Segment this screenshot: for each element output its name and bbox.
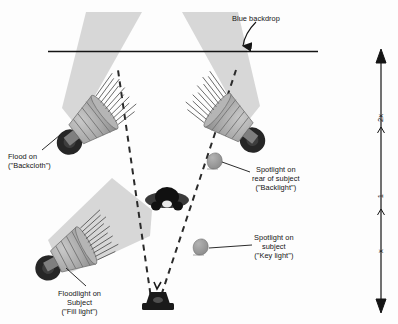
label-flood-backcloth-line1: Flood on bbox=[8, 152, 51, 161]
label-spotlight-key: Spotlight on subject ("Key light") bbox=[254, 233, 294, 261]
camera bbox=[142, 282, 174, 310]
label-flood-backcloth: Flood on ("Backcloth") bbox=[8, 152, 51, 170]
label-floodlight-fill-line2: Subject bbox=[58, 298, 101, 307]
distance-scale-axis bbox=[376, 49, 386, 313]
label-spotlight-backlight-line1: Spotlight on bbox=[252, 165, 300, 174]
label-floodlight-fill: Floodlight on Subject ("Fill light") bbox=[58, 289, 101, 317]
label-flood-backcloth-line2: ("Backcloth") bbox=[8, 161, 51, 170]
label-floodlight-fill-line1: Floodlight on bbox=[58, 289, 101, 298]
spotlight-key-light bbox=[193, 239, 208, 255]
label-spotlight-key-line1: Spotlight on bbox=[254, 233, 294, 242]
label-spotlight-backlight-line3: ("Backlight") bbox=[252, 183, 300, 192]
label-spotlight-backlight-line2: rear of subject bbox=[252, 174, 300, 183]
axis-label-x: x bbox=[377, 242, 385, 260]
label-blue-backdrop: Blue backdrop bbox=[232, 14, 280, 23]
subject-head bbox=[145, 187, 189, 211]
label-spotlight-backlight: Spotlight on rear of subject ("Backlight… bbox=[252, 165, 300, 193]
spotlight-backlight bbox=[207, 153, 222, 169]
label-spotlight-key-line2: subject bbox=[254, 242, 294, 251]
axis-label-1: 1 bbox=[377, 187, 385, 205]
diagram-canvas bbox=[0, 0, 398, 324]
lighting-diagram: Flood on ("Backcloth") Blue backdrop Spo… bbox=[0, 0, 398, 324]
label-spotlight-key-line3: ("Key light") bbox=[254, 251, 294, 260]
label-floodlight-fill-line3: ("Fill light") bbox=[58, 307, 101, 316]
label-blue-backdrop-text: Blue backdrop bbox=[232, 14, 280, 23]
axis-label-2x: 2x bbox=[377, 109, 385, 127]
